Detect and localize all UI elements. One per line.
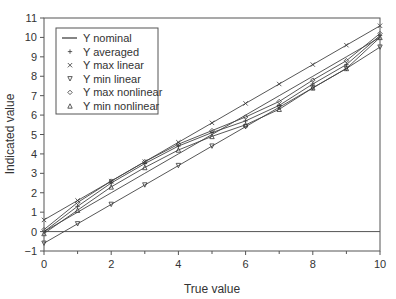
- y-axis-label: Indicated value: [3, 93, 17, 174]
- y-tick-label: 1: [31, 206, 37, 218]
- data-point-marker: [243, 101, 247, 105]
- y-tick-label: 9: [31, 51, 37, 63]
- data-point-marker: [311, 62, 315, 66]
- x-tick-label: 6: [243, 258, 249, 270]
- legend-label: Y max linear: [83, 59, 144, 71]
- x-tick-label: 2: [108, 258, 114, 270]
- data-point-marker: [277, 82, 281, 86]
- y-tick-label: 6: [31, 109, 37, 121]
- data-point-marker: [210, 121, 214, 125]
- legend-label: Y averaged: [83, 46, 139, 58]
- y-tick-label: 4: [31, 148, 37, 160]
- legend-label: Y max nonlinear: [83, 86, 163, 98]
- x-axis-label: True value: [184, 282, 241, 296]
- x-tick-label: 4: [175, 258, 181, 270]
- y-tick-label: 0: [31, 226, 37, 238]
- chart: −1012345678910110246810 Y nominalY avera…: [0, 0, 396, 299]
- data-point-marker: [344, 43, 348, 47]
- x-tick-label: 10: [374, 258, 386, 270]
- y-tick-label: 10: [25, 31, 37, 43]
- x-tick-label: 0: [41, 258, 47, 270]
- x-tick-label: 8: [310, 258, 316, 270]
- y-tick-label: 2: [31, 187, 37, 199]
- y-tick-label: −1: [24, 245, 37, 257]
- y-tick-label: 8: [31, 70, 37, 82]
- y-tick-label: 11: [26, 12, 37, 24]
- legend-label: Y min linear: [83, 73, 141, 85]
- legend-item: Y max nonlinear: [68, 86, 163, 98]
- legend-label: Y nominal: [83, 32, 132, 44]
- y-tick-label: 7: [31, 90, 37, 102]
- legend-label: Y min nonlinear: [83, 100, 160, 112]
- y-tick-label: 3: [31, 167, 37, 179]
- legend: Y nominalY averagedY max linearY min lin…: [56, 28, 163, 114]
- y-tick-label: 5: [31, 129, 37, 141]
